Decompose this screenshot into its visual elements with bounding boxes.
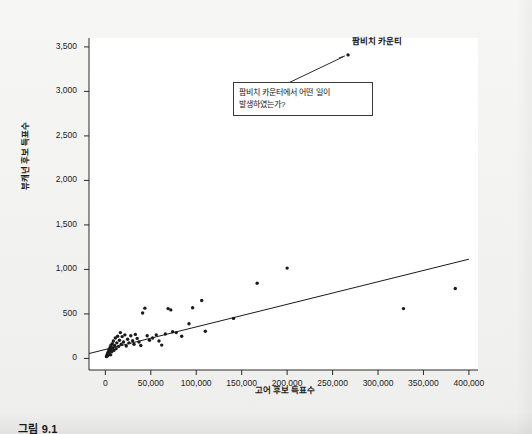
scatter-chart-figure: 05001,0001,5002,0002,5003,0003,500 050,0…	[0, 0, 532, 400]
y-tick-label: 500	[37, 308, 77, 318]
page-root: 05001,0001,5002,0002,5003,0003,500 050,0…	[0, 0, 532, 434]
y-tick-label: 0	[37, 352, 77, 362]
y-tick-label: 1,500	[37, 219, 77, 229]
y-tick-label: 3,000	[37, 85, 77, 95]
y-tick-label: 3,500	[37, 41, 77, 51]
outlier-annotation-label: 팜비치 카운티	[352, 34, 402, 46]
y-tick-label: 2,500	[37, 130, 77, 140]
x-axis-title: 고어 후보 득표수	[90, 383, 480, 395]
x-axis-ticks	[105, 370, 469, 375]
y-tick-label: 2,000	[37, 174, 77, 184]
y-tick-label: 1,000	[37, 263, 77, 273]
callout-text: 팜비치 카운터에서 어떤 일이 발생하였는가?	[239, 87, 367, 110]
y-axis-ticks	[84, 47, 89, 359]
chart-canvas	[0, 0, 532, 400]
figure-caption: 그림 9.1	[18, 420, 58, 434]
y-axis-title: 뷰캐넌 후보 득표수	[18, 96, 30, 216]
callout-box: 팜비치 카운터에서 어떤 일이 발생하였는가?	[233, 82, 373, 116]
